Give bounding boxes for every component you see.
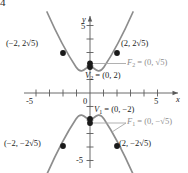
x-axis-label: x (176, 94, 180, 104)
point-focus-lower (87, 120, 93, 126)
x-tick-label-0: 0 (83, 96, 87, 106)
y-tick-label-neg5: -5 (76, 155, 83, 165)
focus-lower-leader-hook (112, 123, 126, 132)
x-tick-label-5: 5 (154, 96, 158, 106)
vertex-lower-subscript: 1 (99, 109, 102, 115)
label-lower-left-point: (−2, −2√5) (4, 139, 41, 148)
label-focus-upper: F2 = (0, √5) (127, 58, 167, 67)
vertex-upper-value: = (0, 2) (93, 70, 120, 80)
label-vertex-upper: V2 = (0, 2) (85, 71, 121, 80)
focus-lower-subscript: 1 (132, 121, 135, 127)
point-upper-right (114, 50, 120, 56)
point-lower-left (60, 143, 66, 149)
label-vertex-lower: V1 = (0, −2) (94, 105, 134, 114)
label-lower-right-point: (2, −2√5) (119, 139, 151, 148)
vertex-lower-value: = (0, −2) (102, 104, 134, 114)
focus-upper-value: = (0, √5) (135, 57, 167, 67)
y-tick-label-5: 5 (81, 21, 85, 31)
x-tick-label-neg5: -5 (26, 96, 33, 106)
focus-lower-value: = (0, −√5) (135, 116, 172, 126)
label-upper-left-point: (−2, 2√5) (6, 39, 38, 48)
y-axis-arrow (88, 16, 92, 22)
point-upper-left (60, 50, 66, 56)
label-upper-right-point: (2, 2√5) (121, 39, 148, 48)
hyperbola-figure: 4 (0, 0, 188, 173)
focus-upper-subscript: 2 (132, 62, 135, 68)
label-focus-lower: F1 = (0, −√5) (127, 117, 172, 126)
vertex-upper-subscript: 2 (90, 75, 93, 81)
